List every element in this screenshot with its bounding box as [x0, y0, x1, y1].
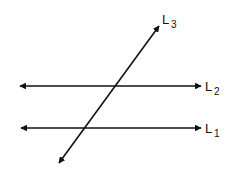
- label-l1-subscript: 1: [214, 128, 220, 139]
- line-l3-transversal: [59, 26, 159, 163]
- label-l3-subscript: 3: [171, 19, 177, 30]
- label-l2-subscript: 2: [214, 86, 220, 97]
- label-l1-main: L: [205, 121, 212, 136]
- label-l3: L 3: [162, 12, 177, 30]
- label-l1: L 1: [205, 121, 220, 139]
- label-l3-main: L: [162, 12, 169, 27]
- diagram-canvas: L 3 L 2 L 1: [0, 0, 238, 172]
- label-l2-main: L: [205, 79, 212, 94]
- label-l2: L 2: [205, 79, 220, 97]
